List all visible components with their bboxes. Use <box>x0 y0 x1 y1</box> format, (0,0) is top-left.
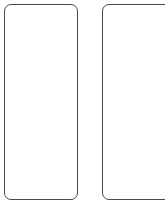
canvas <box>0 0 165 221</box>
left-panel[interactable] <box>4 4 78 200</box>
right-panel[interactable] <box>102 4 165 200</box>
right-panel-content <box>103 5 165 199</box>
left-panel-content <box>5 5 77 199</box>
